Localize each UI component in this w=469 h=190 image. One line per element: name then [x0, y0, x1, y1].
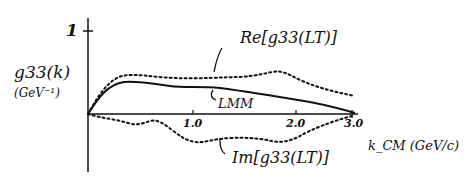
y-tick-label-1: 1: [66, 20, 78, 40]
re-leader: [214, 48, 222, 72]
im-curve: [88, 114, 355, 142]
im-leader: [220, 138, 225, 154]
re-annotation: Re[g33(LT)]: [240, 28, 337, 47]
y-axis-label: g33(k): [14, 62, 70, 82]
im-annotation: Im[g33(LT)]: [232, 148, 329, 167]
lmm-leader: [211, 90, 216, 100]
y-axis-unit: (GeV⁻¹): [14, 86, 60, 100]
x-tick-label-3: 3.0: [344, 117, 363, 130]
x-tick-label-2: 2.0: [286, 117, 305, 130]
lmm-annotation: LMM: [218, 96, 253, 111]
x-tick-label-1: 1.0: [183, 117, 202, 130]
x-axis-label: k_CM (GeV/c): [368, 138, 459, 153]
